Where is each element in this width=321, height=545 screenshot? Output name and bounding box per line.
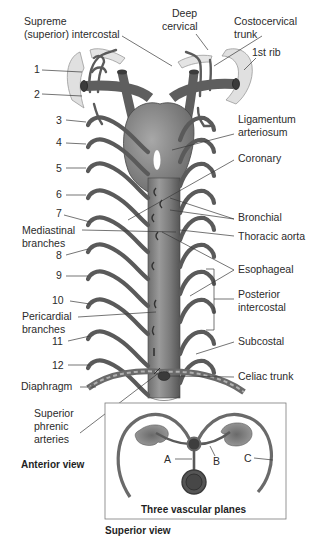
label-supreme-intercostal-1: Supreme <box>24 15 67 27</box>
label-mediastinal-1: Mediastinal <box>22 224 75 236</box>
label-supreme-intercostal-2: (superior) intercostal <box>24 28 120 40</box>
superior-view-inset <box>105 403 286 519</box>
label-pericardial-1: Pericardial <box>22 310 72 322</box>
label-superior-phrenic-3: arteries <box>34 433 69 445</box>
label-superior-phrenic-2: phrenic <box>34 420 68 432</box>
rib-number-9: 9 <box>56 269 62 281</box>
aorta-branches-diagram: Supreme (superior) intercostal 1 2 3 4 5… <box>0 0 321 545</box>
label-deep-cervical-2: cervical <box>162 20 198 32</box>
label-subcostal: Subcostal <box>238 335 284 347</box>
label-pericardial-2: branches <box>22 323 65 335</box>
label-esophageal: Esophageal <box>238 263 293 275</box>
intercostal-artery-right <box>180 272 214 294</box>
arch-opening <box>154 150 161 170</box>
label-ligamentum-1: Ligamentum <box>238 113 296 125</box>
rib-number-8: 8 <box>56 249 62 261</box>
rib-number-10: 10 <box>52 294 64 306</box>
rib-number-5: 5 <box>56 162 62 174</box>
superior-view-caption: Superior view <box>105 525 171 536</box>
rib-number-7: 7 <box>56 207 62 219</box>
label-costocervical-1: Costocervical <box>234 15 297 27</box>
label-celiac-trunk: Celiac trunk <box>238 370 294 382</box>
label-posterior-intercostal-1: Posterior <box>238 288 281 300</box>
label-diaphragm: Diaphragm <box>21 380 73 392</box>
inset-title: Three vascular planes <box>141 504 246 515</box>
inset-label-c: C <box>244 452 252 464</box>
inset-label-b: B <box>213 455 220 467</box>
intercostal-artery-right <box>180 332 214 354</box>
intercostal-artery-right <box>180 245 214 267</box>
label-first-rib: 1st rib <box>252 46 281 58</box>
rib-number-6: 6 <box>56 188 62 200</box>
label-posterior-intercostal-2: intercostal <box>238 301 286 313</box>
intercostal-artery-right <box>180 191 214 213</box>
label-mediastinal-2: branches <box>22 237 65 249</box>
rib-number-1: 1 <box>34 63 40 75</box>
rib-number-4: 4 <box>56 136 62 148</box>
celiac-trunk <box>158 372 170 381</box>
rib-number-2: 2 <box>34 88 40 100</box>
inset-label-a: A <box>164 453 171 465</box>
rib-number-3: 3 <box>56 114 62 126</box>
label-coronary: Coronary <box>238 152 282 164</box>
intercostal-artery-right <box>180 218 214 240</box>
label-thoracic-aorta: Thoracic aorta <box>238 230 305 242</box>
label-superior-phrenic-1: Superior <box>34 407 74 419</box>
anterior-view-caption: Anterior view <box>21 459 85 470</box>
label-costocervical-2: trunk <box>234 28 258 40</box>
intercostal-artery-left <box>88 299 148 334</box>
rib-number-12: 12 <box>52 359 64 371</box>
rib-number-11: 11 <box>52 335 63 347</box>
label-bronchial: Bronchial <box>238 211 282 223</box>
label-deep-cervical-1: Deep <box>172 7 197 19</box>
intercostal-artery-right <box>180 300 214 322</box>
label-ligamentum-2: arteriosum <box>238 126 288 138</box>
